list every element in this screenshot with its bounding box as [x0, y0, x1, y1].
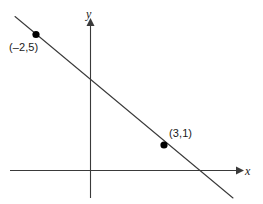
- x-axis: [10, 167, 244, 175]
- graph-canvas: [0, 0, 263, 204]
- data-point-marker-1: [32, 31, 39, 38]
- data-point-marker-2: [160, 141, 167, 148]
- y-axis-label: y: [86, 8, 91, 20]
- data-point-label-2: (3,1): [169, 128, 192, 139]
- coordinate-plane-figure: y x (–2,5) (3,1): [0, 0, 263, 204]
- data-point-label-1: (–2,5): [9, 42, 38, 53]
- x-axis-arrowhead-icon: [236, 167, 244, 175]
- x-axis-label: x: [245, 165, 250, 177]
